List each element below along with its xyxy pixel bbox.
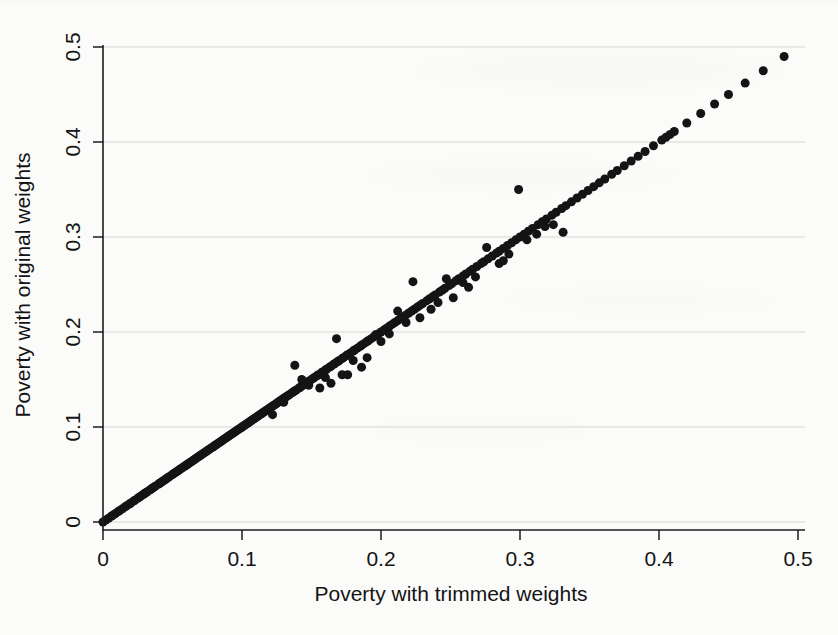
data-point <box>549 220 558 229</box>
x-tick-label: 0 <box>97 547 109 570</box>
data-point <box>357 363 366 372</box>
y-tick-label: 0.2 <box>61 317 84 346</box>
y-tick-label: 0.3 <box>61 222 84 251</box>
data-point <box>408 277 417 286</box>
data-point <box>559 228 568 237</box>
data-point <box>402 318 411 327</box>
y-tick-label: 0.1 <box>61 412 84 441</box>
x-tick-label: 0.2 <box>366 547 395 570</box>
data-point <box>499 256 508 265</box>
data-point <box>541 222 550 231</box>
data-point <box>304 381 313 390</box>
data-point <box>315 384 324 393</box>
data-point <box>349 356 358 365</box>
data-point <box>326 379 335 388</box>
data-point <box>449 293 458 302</box>
data-point <box>268 410 277 419</box>
data-point <box>532 230 541 239</box>
data-point <box>682 119 691 128</box>
y-axis-title: Poverty with original weights <box>11 153 34 418</box>
data-point <box>377 337 386 346</box>
y-tick-label: 0.5 <box>61 32 84 61</box>
data-point <box>279 398 288 407</box>
data-point <box>514 185 523 194</box>
data-point <box>332 334 341 343</box>
x-tick-label: 0.5 <box>783 547 812 570</box>
y-tick-label: 0 <box>61 516 84 528</box>
plot-canvas: 00.10.20.30.40.500.10.20.30.40.5 Poverty… <box>0 0 838 635</box>
data-point <box>290 361 299 370</box>
data-point <box>471 272 480 281</box>
data-point <box>433 298 442 307</box>
x-tick-label: 0.3 <box>505 547 534 570</box>
y-tick-label: 0.4 <box>61 127 84 157</box>
data-point <box>343 370 352 379</box>
data-point <box>522 235 531 244</box>
data-point <box>442 274 451 283</box>
data-point <box>464 283 473 292</box>
data-point <box>759 66 768 75</box>
data-point <box>780 52 789 61</box>
data-point <box>696 109 705 118</box>
x-axis-title: Poverty with trimmed weights <box>314 582 587 605</box>
data-point <box>415 313 424 322</box>
data-point <box>482 243 491 252</box>
data-point <box>670 127 679 136</box>
data-point <box>393 307 402 316</box>
data-point <box>710 100 719 109</box>
data-point <box>427 305 436 314</box>
x-tick-label: 0.4 <box>644 547 674 570</box>
data-point <box>741 79 750 88</box>
data-point <box>297 375 306 384</box>
data-point <box>724 90 733 99</box>
data-point <box>385 329 394 338</box>
x-tick-label: 0.1 <box>227 547 256 570</box>
data-point-group <box>99 52 789 527</box>
data-point <box>649 141 658 150</box>
axis-group <box>93 45 805 540</box>
data-point <box>363 353 372 362</box>
data-point <box>641 147 650 156</box>
scatter-plot-figure: 00.10.20.30.40.500.10.20.30.40.5 Poverty… <box>0 0 838 635</box>
